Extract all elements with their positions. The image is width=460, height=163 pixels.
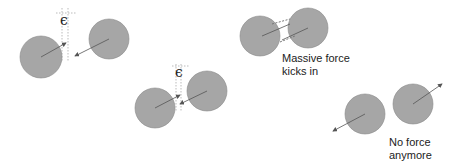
panel-approach bbox=[20, 8, 129, 78]
collision-diagram: ϵ ϵ Massive force kicks in No force anym… bbox=[0, 0, 460, 163]
caption-line-1: Massive force bbox=[282, 52, 350, 65]
caption-line-1: No force bbox=[389, 136, 432, 149]
caption-line-2: kicks in bbox=[282, 65, 350, 78]
panel-overlap bbox=[240, 8, 328, 56]
caption-overlap: Massive force kicks in bbox=[282, 52, 350, 78]
panel-separate bbox=[333, 84, 442, 134]
epsilon-label-approach: ϵ bbox=[60, 12, 68, 28]
epsilon-label-contact: ϵ bbox=[175, 64, 183, 80]
caption-line-2: anymore bbox=[389, 149, 432, 162]
ball-left bbox=[240, 16, 280, 56]
caption-separate: No force anymore bbox=[389, 136, 432, 162]
